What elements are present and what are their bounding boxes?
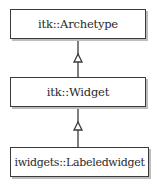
class-box-archetype: itk::Archetype (10, 9, 146, 39)
generalization-arrow-icon (74, 122, 82, 130)
class-label: itk::Widget (47, 85, 109, 99)
generalization-arrow-icon (74, 54, 82, 62)
class-label: iwidgets::Labeledwidget (14, 156, 144, 169)
class-box-labeledwidget: iwidgets::Labeledwidget (10, 147, 149, 177)
class-box-widget: itk::Widget (10, 77, 146, 107)
class-label: itk::Archetype (38, 17, 118, 31)
